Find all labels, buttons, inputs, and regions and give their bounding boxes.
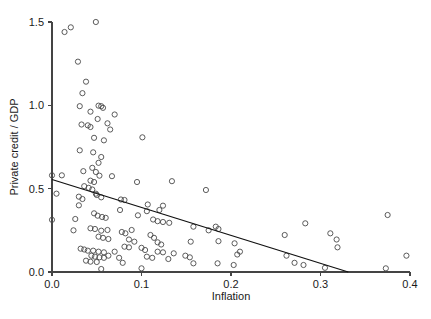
- data-point-marker: [54, 191, 59, 196]
- data-point-marker: [188, 239, 193, 244]
- scatter-plot-figure: 0.00.51.01.5 0.00.10.20.30.4 Inflation P…: [0, 0, 431, 319]
- data-point-marker: [68, 25, 73, 30]
- y-tick-label: 1.5: [29, 16, 44, 28]
- data-point-marker: [303, 221, 308, 226]
- y-axis-title: Private credit / GDP: [8, 98, 20, 195]
- data-point-marker: [77, 104, 82, 109]
- data-point-marker: [117, 255, 122, 260]
- data-point-marker: [73, 216, 78, 221]
- data-point-marker: [129, 227, 134, 232]
- data-point-marker: [335, 245, 340, 250]
- data-point-marker: [62, 29, 67, 34]
- data-point-marker: [109, 174, 114, 179]
- data-point-marker: [103, 215, 108, 220]
- data-point-marker: [334, 237, 339, 242]
- data-point-marker: [404, 253, 409, 258]
- data-point-marker: [160, 250, 165, 255]
- x-tick-label: 0.4: [402, 278, 417, 290]
- data-point-marker: [385, 212, 390, 217]
- y-tick-labels: 0.00.51.01.5: [29, 16, 44, 278]
- data-point-marker: [383, 266, 388, 271]
- data-point-marker: [78, 246, 83, 251]
- chart-canvas: 0.00.51.01.5 0.00.10.20.30.4 Inflation P…: [0, 0, 431, 319]
- data-point-marker: [151, 235, 156, 240]
- data-point-marker: [105, 227, 110, 232]
- data-point-marker: [150, 255, 155, 260]
- data-point-marker: [126, 237, 131, 242]
- data-point-marker: [112, 112, 117, 117]
- data-point-marker: [155, 249, 160, 254]
- data-point-marker: [77, 148, 82, 153]
- data-point-marker: [301, 262, 306, 267]
- data-point-marker: [82, 247, 87, 252]
- data-point-marker: [93, 19, 98, 24]
- data-point-marker: [135, 213, 140, 218]
- y-tick-label: 0.0: [29, 266, 44, 278]
- data-point-marker: [91, 248, 96, 253]
- data-point-marker: [97, 173, 102, 178]
- x-tick-labels: 0.00.10.20.30.4: [44, 278, 417, 290]
- data-point-marker: [322, 265, 327, 270]
- data-point-marker: [160, 219, 165, 224]
- data-point-marker: [112, 249, 117, 254]
- x-tick-label: 0.3: [313, 278, 328, 290]
- data-point-marker: [81, 169, 86, 174]
- data-point-marker: [75, 59, 80, 64]
- data-point-marker: [106, 236, 111, 241]
- data-point-marker: [166, 256, 171, 261]
- data-point-marker: [139, 266, 144, 271]
- data-point-marker: [96, 160, 101, 165]
- data-point-marker: [94, 259, 99, 264]
- data-points: [49, 19, 409, 271]
- data-point-marker: [76, 203, 81, 208]
- data-point-marker: [106, 253, 111, 258]
- data-point-marker: [91, 150, 96, 155]
- x-axis-title: Inflation: [212, 290, 251, 302]
- x-tick-label: 0.2: [223, 278, 238, 290]
- data-point-marker: [203, 187, 208, 192]
- y-tick-marks: [48, 22, 52, 272]
- data-point-marker: [145, 202, 150, 207]
- y-tick-label: 0.5: [29, 183, 44, 195]
- data-point-marker: [328, 231, 333, 236]
- data-point-marker: [134, 179, 139, 184]
- data-point-marker: [85, 248, 90, 253]
- data-point-marker: [231, 262, 236, 267]
- data-point-marker: [169, 179, 174, 184]
- data-point-marker: [140, 135, 145, 140]
- x-tick-label: 0.0: [44, 278, 59, 290]
- data-point-marker: [155, 219, 160, 224]
- data-point-marker: [59, 173, 64, 178]
- data-point-marker: [117, 207, 122, 212]
- data-point-marker: [191, 261, 196, 266]
- data-point-marker: [96, 249, 101, 254]
- data-point-marker: [215, 261, 220, 266]
- data-point-marker: [232, 241, 237, 246]
- data-point-marker: [99, 154, 104, 159]
- data-point-marker: [105, 121, 110, 126]
- data-point-marker: [91, 135, 96, 140]
- data-point-marker: [80, 91, 85, 96]
- data-point-marker: [108, 127, 113, 132]
- y-tick-label: 1.0: [29, 99, 44, 111]
- data-point-marker: [120, 260, 125, 265]
- data-point-marker: [101, 138, 106, 143]
- data-point-marker: [89, 253, 94, 258]
- data-point-marker: [282, 232, 287, 237]
- data-point-marker: [292, 260, 297, 265]
- data-point-marker: [216, 239, 221, 244]
- data-point-marker: [99, 228, 104, 233]
- data-point-marker: [99, 266, 104, 271]
- data-point-marker: [83, 79, 88, 84]
- data-point-marker: [71, 228, 76, 233]
- data-point-marker: [148, 232, 153, 237]
- data-point-marker: [144, 254, 149, 259]
- data-point-marker: [171, 251, 176, 256]
- data-point-marker: [187, 255, 192, 260]
- data-point-marker: [95, 116, 100, 121]
- x-tick-marks: [52, 272, 410, 276]
- x-tick-label: 0.1: [134, 278, 149, 290]
- data-point-marker: [167, 220, 172, 225]
- data-point-marker: [88, 109, 93, 114]
- data-point-marker: [132, 239, 137, 244]
